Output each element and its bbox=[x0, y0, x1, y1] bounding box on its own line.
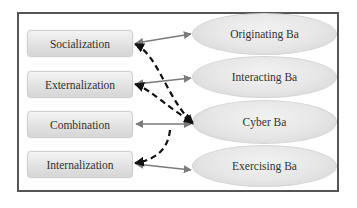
ba-ellipse-exercising: Exercising Ba bbox=[192, 145, 337, 187]
mode-box-internalization: Internalization bbox=[27, 151, 133, 178]
ba-label: Interacting Ba bbox=[232, 71, 297, 83]
mode-label: Socialization bbox=[50, 38, 110, 50]
ba-label: Exercising Ba bbox=[232, 160, 297, 172]
ba-ellipse-interacting: Interacting Ba bbox=[192, 56, 337, 98]
knowledge-ba-diagram: Socialization Externalization Combinatio… bbox=[0, 0, 357, 208]
mode-box-externalization: Externalization bbox=[27, 71, 133, 98]
ba-label: Cyber Ba bbox=[243, 116, 287, 128]
mode-label: Combination bbox=[50, 119, 110, 131]
ba-ellipse-originating: Originating Ba bbox=[192, 13, 337, 55]
mode-label: Externalization bbox=[45, 79, 115, 91]
mode-box-socialization: Socialization bbox=[27, 30, 133, 57]
ba-label: Originating Ba bbox=[230, 28, 299, 40]
mode-label: Internalization bbox=[46, 159, 113, 171]
mode-box-combination: Combination bbox=[27, 111, 133, 138]
ba-ellipse-cyber: Cyber Ba bbox=[192, 100, 337, 144]
